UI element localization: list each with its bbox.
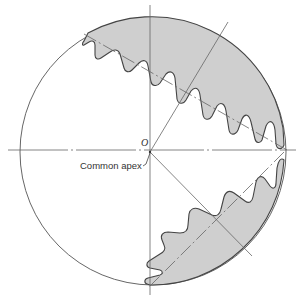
apex-leader-line bbox=[143, 153, 150, 166]
apex-point-label: O bbox=[141, 137, 148, 148]
upper-gear-teeth bbox=[83, 17, 285, 149]
apex-caption: Common apex bbox=[80, 160, 142, 171]
apex-point bbox=[149, 151, 151, 153]
bevel-gear-diagram bbox=[0, 0, 306, 297]
